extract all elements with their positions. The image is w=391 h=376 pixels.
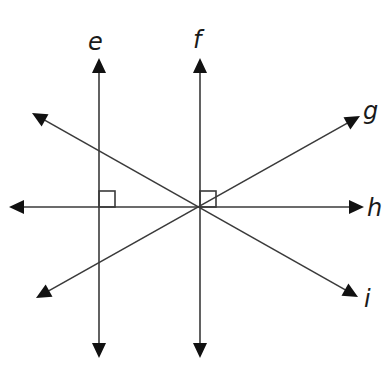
arrowhead-h-start-icon bbox=[9, 200, 24, 214]
label-e: e bbox=[88, 28, 103, 56]
arrowhead-i-start-icon bbox=[32, 113, 49, 126]
line-h bbox=[9, 200, 364, 214]
right-angle-marker-e-h-icon bbox=[99, 191, 115, 207]
lines-layer bbox=[9, 58, 364, 358]
label-g: g bbox=[363, 97, 378, 125]
arrowhead-f-end-icon bbox=[193, 343, 207, 358]
line-i-segment bbox=[42, 119, 347, 291]
arrowhead-g-end-icon bbox=[343, 116, 360, 129]
arrowhead-i-end-icon bbox=[341, 284, 358, 297]
label-h: h bbox=[367, 194, 382, 222]
line-i bbox=[32, 113, 358, 297]
arrowhead-e-end-icon bbox=[92, 343, 106, 358]
arrowhead-e-start-icon bbox=[92, 58, 106, 73]
arrowhead-g-start-icon bbox=[36, 285, 53, 298]
label-f: f bbox=[193, 26, 205, 54]
label-i: i bbox=[364, 285, 371, 313]
line-e bbox=[92, 58, 106, 358]
arrowhead-h-end-icon bbox=[349, 200, 364, 214]
arrowhead-f-start-icon bbox=[193, 58, 207, 73]
right-angle-markers bbox=[99, 191, 216, 207]
geometry-diagram: efghi bbox=[0, 0, 391, 376]
